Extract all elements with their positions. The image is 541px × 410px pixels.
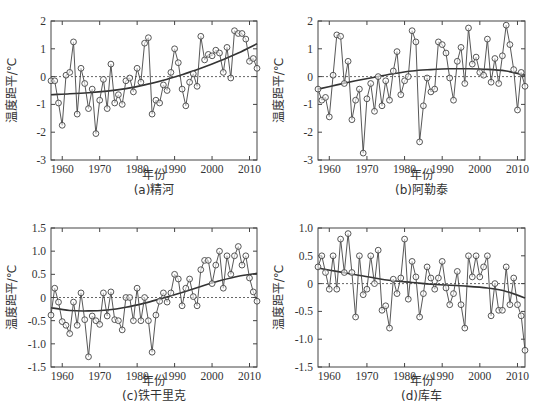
x-tick-label: 1960 — [318, 370, 341, 382]
data-point — [315, 86, 321, 92]
data-point — [402, 236, 408, 242]
data-point — [228, 271, 234, 277]
y-tick-label: -1 — [303, 98, 313, 110]
data-point — [213, 262, 219, 268]
data-point — [209, 281, 215, 287]
data-point — [119, 327, 125, 333]
data-point — [447, 302, 453, 308]
data-point — [439, 259, 445, 265]
data-point — [164, 299, 170, 305]
y-axis-title: 温度距平/℃ — [271, 58, 286, 124]
data-point — [436, 275, 442, 281]
data-point — [375, 247, 381, 253]
data-point — [334, 286, 340, 292]
data-point — [338, 33, 344, 39]
data-point — [104, 313, 110, 319]
data-point — [394, 49, 400, 55]
chart-panel-c: 1.51.00.50-0.5-1.0-1.5196019701980199020… — [4, 222, 261, 403]
data-point — [168, 70, 174, 76]
data-point — [172, 46, 178, 52]
data-point — [194, 303, 200, 309]
data-point — [239, 262, 245, 268]
data-point — [138, 79, 144, 85]
data-point — [82, 81, 88, 87]
data-point — [466, 25, 472, 31]
data-point — [157, 100, 163, 106]
data-point — [82, 317, 88, 323]
data-point — [161, 82, 167, 88]
data-point — [93, 131, 99, 137]
data-point — [511, 67, 517, 73]
data-point — [326, 286, 332, 292]
data-point — [383, 303, 389, 309]
y-tick-label: -1.0 — [28, 338, 46, 350]
data-point — [67, 331, 73, 337]
data-point — [138, 318, 144, 324]
data-point — [319, 253, 325, 259]
data-point — [56, 299, 62, 305]
data-point — [338, 236, 344, 242]
y-tick-label: 1.0 — [32, 245, 47, 257]
data-point — [439, 42, 445, 48]
y-tick-label: -2 — [36, 126, 46, 138]
data-point — [134, 65, 140, 71]
data-point — [357, 253, 363, 259]
data-point — [522, 347, 528, 353]
data-point — [447, 75, 453, 81]
data-point — [149, 349, 155, 355]
data-point — [500, 53, 506, 59]
data-point — [507, 42, 513, 48]
data-point — [89, 86, 95, 92]
data-point — [179, 86, 185, 92]
y-tick-label: 1.0 — [299, 222, 314, 234]
data-point — [372, 108, 378, 114]
data-point — [368, 253, 374, 259]
x-tick-label: 1960 — [318, 163, 341, 175]
y-tick-label: -3 — [303, 154, 313, 166]
data-point — [243, 253, 249, 259]
data-point — [375, 74, 381, 80]
figure-four-panels: 210-1-2-3196019701980199020002010年份温度距平/… — [0, 0, 541, 410]
y-axis-title: 温度距平/℃ — [4, 58, 19, 124]
data-point — [417, 139, 423, 145]
data-point — [190, 71, 196, 77]
data-point — [345, 58, 351, 64]
data-point — [379, 103, 385, 109]
data-point — [209, 53, 215, 59]
data-point — [357, 86, 363, 92]
data-point — [175, 276, 181, 282]
data-point — [454, 269, 460, 275]
data-point — [383, 78, 389, 84]
data-point — [78, 65, 84, 71]
data-point — [424, 264, 430, 270]
anomaly-series-line — [318, 25, 525, 153]
data-point — [235, 244, 241, 250]
x-axis-title: 年份 — [410, 374, 434, 388]
data-point — [175, 60, 181, 66]
data-point — [511, 275, 517, 281]
data-point — [492, 281, 498, 287]
data-point — [97, 322, 103, 328]
panel-caption: (c)铁干里克 — [122, 389, 186, 403]
data-point — [518, 313, 524, 319]
data-point — [477, 274, 483, 280]
data-point — [149, 111, 155, 117]
data-point — [220, 285, 226, 291]
anomaly-series-line — [51, 247, 257, 357]
data-point — [360, 150, 366, 156]
data-point — [108, 61, 114, 67]
data-point — [97, 97, 103, 103]
plot-frame — [51, 21, 257, 160]
data-point — [341, 81, 347, 87]
data-point — [161, 290, 167, 296]
x-tick-label: 1970 — [88, 163, 111, 175]
data-point — [488, 313, 494, 319]
data-point — [247, 275, 253, 281]
chart-panel-d: 1.00.50-0.5-1.0-1.5196019701980199020002… — [271, 222, 529, 403]
data-point — [387, 325, 393, 331]
data-point — [194, 83, 200, 89]
data-point — [86, 106, 92, 112]
data-point — [394, 291, 400, 297]
data-point — [131, 318, 137, 324]
data-point — [224, 45, 230, 51]
